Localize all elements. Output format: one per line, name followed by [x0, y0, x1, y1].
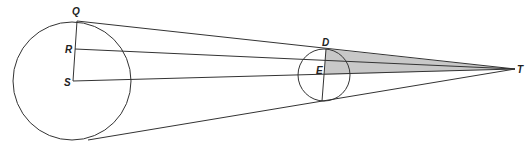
label-T: T	[517, 64, 524, 75]
large-circle	[13, 22, 131, 140]
label-D: D	[322, 37, 329, 48]
label-S: S	[64, 77, 71, 88]
line-RT	[75, 49, 515, 69]
label-E: E	[316, 65, 323, 76]
line-ST	[73, 69, 515, 81]
geometry-diagram: Q R S D E T	[0, 0, 530, 151]
line-bottom-tangent	[88, 69, 515, 140]
label-R: R	[65, 44, 73, 55]
label-Q: Q	[72, 6, 80, 17]
segment-QS	[73, 21, 77, 81]
line-QT	[77, 21, 515, 69]
